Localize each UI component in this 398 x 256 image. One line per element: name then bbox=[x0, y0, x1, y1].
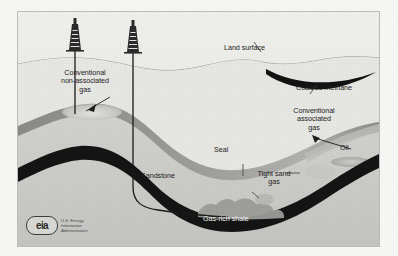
label-coalbed-methane: Coalbed methane bbox=[296, 84, 352, 92]
label-sandstone: Sandstone bbox=[141, 172, 175, 180]
eia-logo-wordmark: U.S. Energy Information Administration bbox=[61, 218, 88, 233]
label-tight-sand-gas: Tight sand gas bbox=[250, 170, 298, 187]
label-conventional-non-associated-gas: Conventional non-associated gas bbox=[52, 69, 118, 94]
label-seal: Seal bbox=[214, 146, 228, 154]
label-gas-rich-shale: Gas-rich shale bbox=[203, 215, 249, 223]
eia-logo-mark-text: eia bbox=[36, 221, 48, 231]
screenshot-root: Land surface Coalbed methane Conventiona… bbox=[0, 0, 398, 256]
label-conventional-associated-gas: Conventional associated gas bbox=[283, 107, 345, 132]
eia-logo-mark: eia bbox=[26, 216, 58, 235]
label-land-surface: Land surface bbox=[224, 44, 265, 52]
non-associated-gas-pocket bbox=[62, 104, 122, 120]
label-oil: Oil bbox=[340, 144, 349, 152]
eia-logo: eia U.S. Energy Information Administrati… bbox=[26, 216, 88, 235]
